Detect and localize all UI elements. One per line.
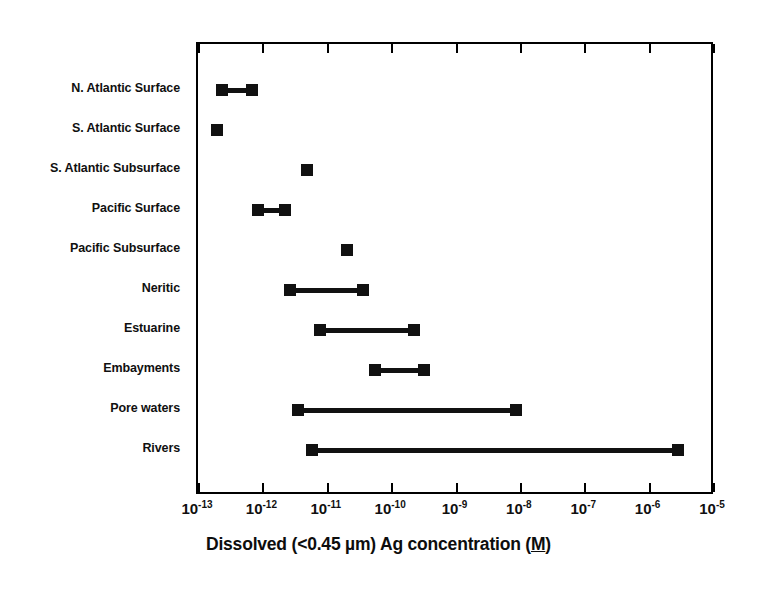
category-axis: N. Atlantic SurfaceS. Atlantic SurfaceS.… bbox=[0, 42, 188, 494]
plot-frame bbox=[196, 42, 713, 494]
x-tick-bottom-7 bbox=[649, 483, 651, 492]
x-axis-tick-labels: 10-1310-1210-1110-1010-910-810-710-610-5 bbox=[196, 500, 713, 526]
range-line bbox=[290, 288, 363, 293]
x-tick-bottom-1 bbox=[262, 483, 264, 492]
category-label-3: Pacific Surface bbox=[0, 201, 180, 215]
range-marker-low bbox=[314, 324, 326, 336]
category-label-1: S. Atlantic Surface bbox=[0, 121, 180, 135]
chart-figure: N. Atlantic SurfaceS. Atlantic SurfaceS.… bbox=[0, 0, 757, 591]
x-tick-label-6: 10-7 bbox=[570, 500, 596, 517]
range-marker-high bbox=[672, 444, 684, 456]
category-label-5: Neritic bbox=[0, 281, 180, 295]
category-label-4: Pacific Subsurface bbox=[0, 241, 180, 255]
range-line bbox=[320, 328, 414, 333]
range-marker-high bbox=[418, 364, 430, 376]
x-tick-bottom-8 bbox=[713, 483, 715, 492]
range-line bbox=[375, 368, 423, 373]
range-marker-high bbox=[408, 324, 420, 336]
range-marker-low bbox=[252, 204, 264, 216]
range-marker-low bbox=[341, 244, 353, 256]
x-tick-label-4: 10-9 bbox=[442, 500, 468, 517]
x-tick-top-2 bbox=[327, 44, 329, 53]
x-tick-top-1 bbox=[262, 44, 264, 53]
range-marker-high bbox=[279, 204, 291, 216]
x-tick-bottom-2 bbox=[327, 483, 329, 492]
range-line bbox=[312, 448, 679, 453]
x-tick-top-7 bbox=[649, 44, 651, 53]
range-marker-low bbox=[306, 444, 318, 456]
x-tick-top-8 bbox=[713, 44, 715, 53]
range-marker-high bbox=[510, 404, 522, 416]
category-label-8: Pore waters bbox=[0, 401, 180, 415]
plot-area bbox=[198, 44, 711, 492]
x-tick-bottom-0 bbox=[198, 483, 200, 492]
x-tick-bottom-4 bbox=[456, 483, 458, 492]
category-label-2: S. Atlantic Subsurface bbox=[0, 161, 180, 175]
x-tick-bottom-5 bbox=[520, 483, 522, 492]
range-marker-low bbox=[301, 164, 313, 176]
x-tick-top-6 bbox=[584, 44, 586, 53]
x-tick-label-5: 10-8 bbox=[506, 500, 532, 517]
range-marker-high bbox=[357, 284, 369, 296]
x-tick-bottom-6 bbox=[584, 483, 586, 492]
category-label-0: N. Atlantic Surface bbox=[0, 81, 180, 95]
x-tick-label-1: 10-12 bbox=[246, 500, 277, 517]
x-tick-label-0: 10-13 bbox=[181, 500, 212, 517]
range-marker-low bbox=[284, 284, 296, 296]
x-tick-top-3 bbox=[391, 44, 393, 53]
category-label-6: Estuarine bbox=[0, 321, 180, 335]
range-line bbox=[298, 408, 516, 413]
x-axis-title: Dissolved (<0.45 µm) Ag concentration (M… bbox=[0, 534, 757, 555]
x-tick-top-5 bbox=[520, 44, 522, 53]
category-label-7: Embayments bbox=[0, 361, 180, 375]
range-marker-low bbox=[369, 364, 381, 376]
x-tick-label-3: 10-10 bbox=[375, 500, 406, 517]
range-marker-low bbox=[216, 84, 228, 96]
x-axis-title-part2: ) bbox=[545, 534, 551, 554]
x-tick-bottom-3 bbox=[391, 483, 393, 492]
x-axis-title-part1: Dissolved (<0.45 µm) Ag concentration ( bbox=[206, 534, 531, 554]
range-marker-low bbox=[211, 124, 223, 136]
x-axis-title-molar-symbol: M bbox=[531, 534, 545, 554]
x-tick-label-7: 10-6 bbox=[635, 500, 661, 517]
x-tick-top-0 bbox=[198, 44, 200, 53]
category-label-9: Rivers bbox=[0, 441, 180, 455]
x-tick-label-2: 10-11 bbox=[310, 500, 341, 517]
range-marker-low bbox=[292, 404, 304, 416]
range-marker-high bbox=[246, 84, 258, 96]
x-tick-top-4 bbox=[456, 44, 458, 53]
x-tick-label-8: 10-5 bbox=[699, 500, 725, 517]
